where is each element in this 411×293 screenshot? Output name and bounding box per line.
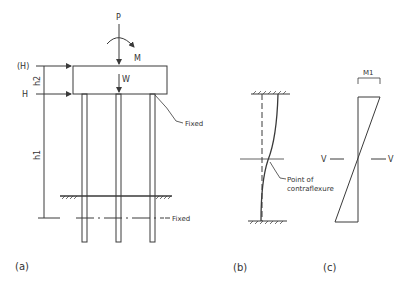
caption-c: (c) xyxy=(323,262,336,273)
m1-bracket xyxy=(358,78,380,84)
label-contraflexure: contraflexure xyxy=(287,185,334,193)
label-fixed-top: Fixed xyxy=(185,120,203,128)
label-point-of: Point of xyxy=(287,176,314,184)
label-h: H xyxy=(22,90,28,99)
pile-middle xyxy=(116,94,121,242)
deflected-column xyxy=(261,94,278,221)
label-h1: h1 xyxy=(33,150,42,160)
caption-b: (b) xyxy=(233,262,247,273)
label-m1: M1 xyxy=(363,69,374,77)
label-h-top: (H) xyxy=(17,62,29,71)
pile-right xyxy=(150,94,155,242)
fixed-leader xyxy=(155,95,183,123)
label-fixed-bottom: Fixed xyxy=(172,215,190,223)
moment-arrow xyxy=(107,38,134,47)
label-v-right: V xyxy=(388,155,394,164)
label-h2: h2 xyxy=(33,76,42,86)
panel-b xyxy=(240,91,290,224)
panel-c xyxy=(330,78,386,222)
pile-left xyxy=(82,94,87,242)
pile-cap xyxy=(73,66,167,94)
pile-group-diagram: P M W (H) H h2 h1 Fixed Fixed (a) Point … xyxy=(0,0,411,293)
panel-b-labels: Point of contraflexure (b) xyxy=(233,176,334,273)
label-v-left: V xyxy=(321,155,327,164)
panel-a-labels: P M W (H) H h2 h1 Fixed Fixed (a) xyxy=(15,13,203,272)
caption-a: (a) xyxy=(15,261,29,272)
panel-a xyxy=(36,24,183,242)
label-p: P xyxy=(116,13,121,22)
contraflexure-leader xyxy=(270,162,286,179)
label-w: W xyxy=(122,75,130,84)
label-m: M xyxy=(134,54,141,63)
